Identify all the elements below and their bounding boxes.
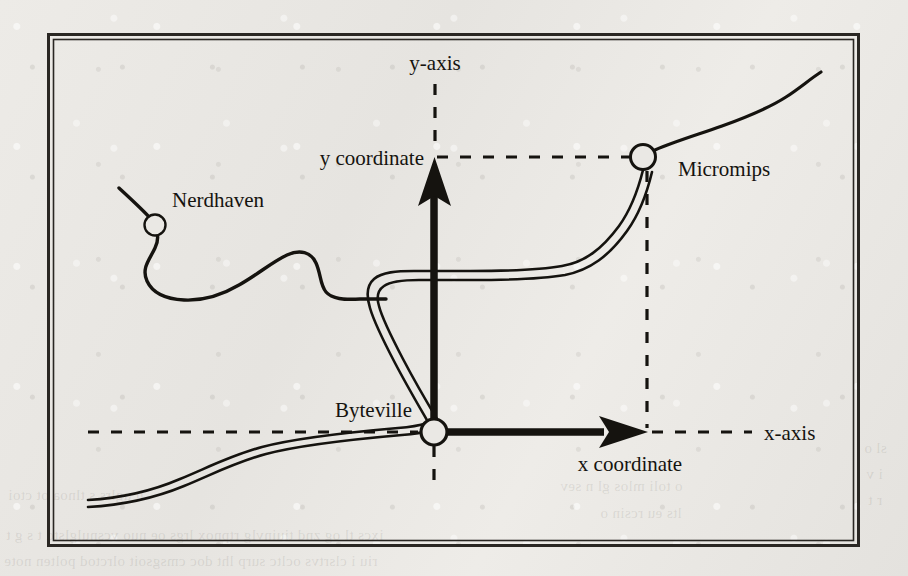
road-highway-north-rail-left (368, 170, 643, 422)
x-axis-label: x-axis (764, 421, 815, 445)
x-axis-arrowhead (599, 416, 648, 448)
road-micromips-northeast (655, 72, 821, 150)
city-label-byteville: Byteville (335, 398, 412, 422)
city-node-byteville[interactable] (421, 419, 447, 445)
coordinate-map-figure: Nerdhaven Byteville Micromips y-axis x-a… (0, 0, 908, 576)
road-highway-rail-outer (88, 422, 431, 500)
roads-layer (88, 72, 821, 507)
road-highway-rail-inner (88, 429, 435, 507)
y-coordinate-label: y coordinate (320, 146, 424, 170)
city-label-micromips: Micromips (678, 157, 770, 181)
city-node-micromips[interactable] (631, 145, 656, 170)
road-highway-north-rail-right (378, 172, 652, 419)
figure-frame (49, 35, 859, 546)
city-node-nerdhaven[interactable] (145, 215, 166, 236)
labels-layer: Nerdhaven Byteville Micromips y-axis x-a… (172, 51, 815, 476)
figure-page: ixcs tl og znd tiuinvlg rtpnox lrgs oe n… (0, 0, 908, 576)
axes-layer (418, 157, 648, 448)
x-coordinate-label: x coordinate (578, 452, 682, 476)
y-axis-label: y-axis (409, 51, 460, 75)
city-label-nerdhaven: Nerdhaven (172, 188, 265, 212)
